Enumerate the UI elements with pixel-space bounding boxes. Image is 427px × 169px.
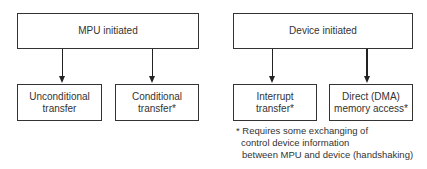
device-initiated-label: Device initiated	[289, 25, 357, 37]
footnote-line1: * Requires some exchanging of	[236, 125, 413, 137]
dma-line1: Direct (DMA)	[342, 91, 400, 103]
interrupt-transfer-line2: transfer*	[256, 103, 294, 115]
dma-box: Direct (DMA) memory access*	[329, 84, 413, 121]
device-initiated-box: Device initiated	[233, 13, 413, 49]
mpu-initiated-box: MPU initiated	[17, 13, 199, 49]
dma-line2: memory access*	[334, 103, 408, 115]
arrowhead-icon	[59, 76, 65, 83]
arrowhead-icon	[269, 76, 275, 83]
unconditional-transfer-line1: Unconditional	[29, 91, 90, 103]
arrow-device-to-interrupt	[272, 49, 274, 77]
footnote: * Requires some exchanging of control de…	[236, 125, 413, 161]
mpu-initiated-label: MPU initiated	[78, 25, 137, 37]
arrow-mpu-to-unconditional	[62, 49, 64, 77]
interrupt-transfer-box: Interrupt transfer*	[233, 84, 317, 121]
arrowhead-icon	[149, 76, 155, 83]
footnote-line2: control device information	[236, 137, 413, 149]
arrow-mpu-to-conditional	[152, 49, 154, 77]
conditional-transfer-line2: transfer*	[138, 103, 176, 115]
conditional-transfer-line1: Conditional	[132, 91, 182, 103]
unconditional-transfer-box: Unconditional transfer	[17, 84, 102, 121]
conditional-transfer-box: Conditional transfer*	[115, 84, 199, 121]
interrupt-transfer-line1: Interrupt	[256, 91, 293, 103]
arrow-device-to-dma	[366, 49, 368, 77]
arrowhead-icon	[364, 76, 370, 83]
unconditional-transfer-line2: transfer	[43, 103, 77, 115]
footnote-line3: between MPU and device (handshaking)	[236, 149, 413, 161]
